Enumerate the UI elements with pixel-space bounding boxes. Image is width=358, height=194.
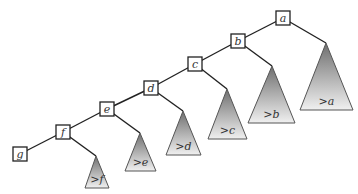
tree-canvas: >a>b>c>d>e>f abcdefg [0,0,358,194]
subtree-label: >c [220,124,235,137]
node-label: d [147,82,154,95]
subtree-label: >a [319,95,335,108]
node-c: c [188,57,202,71]
subtree-label: >b [263,108,279,121]
node-e: e [100,102,114,116]
node-label: e [104,103,111,116]
subtree-d: >d [166,111,201,155]
subtree-label: >e [133,156,149,169]
node-f: f [56,125,70,139]
subtree-e: >e [125,133,156,171]
subtree-b: >b [248,66,295,123]
tree-diagram: >a>b>c>d>e>f abcdefg [0,0,358,194]
node-b: b [231,34,245,48]
subtrees: >a>b>c>d>e>f [85,43,353,188]
node-label: c [192,58,198,71]
node-g: g [13,147,27,161]
node-d: d [144,81,158,95]
node-label: g [16,148,23,161]
node-a: a [276,11,290,25]
node-label: b [234,35,241,48]
subtree-c: >c [208,89,247,139]
subtree-f: >f [85,156,109,188]
subtree-label: >f [90,173,105,186]
nodes: abcdefg [13,11,290,161]
node-label: a [280,12,287,25]
subtree-a: >a [300,43,353,110]
subtree-label: >d [175,140,191,153]
